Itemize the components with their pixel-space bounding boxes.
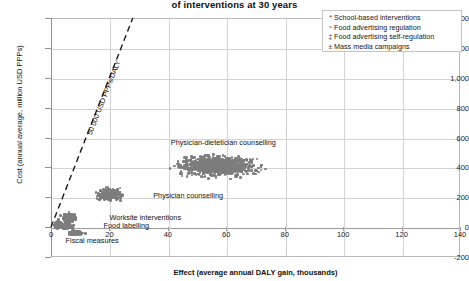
legend-label: Mass media campaigns xyxy=(334,42,410,52)
y-tick-label: 200 xyxy=(423,193,469,202)
data-point xyxy=(215,157,218,160)
data-point xyxy=(256,158,259,161)
data-point xyxy=(245,163,248,166)
data-point xyxy=(69,215,72,218)
gridline-vertical xyxy=(344,19,345,256)
data-point xyxy=(119,187,122,190)
data-point xyxy=(239,176,242,179)
data-point xyxy=(99,197,102,200)
data-point xyxy=(234,176,237,179)
data-point xyxy=(108,194,111,197)
cluster-annotation: Physician counselling xyxy=(153,191,223,200)
x-tick-mark xyxy=(402,227,403,231)
legend-marker-icon: ± xyxy=(327,42,334,51)
data-point xyxy=(181,175,184,178)
data-point xyxy=(207,177,210,180)
legend-item: ˣ Food advertising regulation xyxy=(327,23,458,33)
data-point xyxy=(257,171,260,174)
data-point xyxy=(199,165,202,168)
data-point xyxy=(213,170,216,173)
legend-label: Food advertising regulation xyxy=(334,23,421,33)
x-tick-mark xyxy=(51,227,52,231)
data-point xyxy=(209,166,212,169)
y-tick-mark xyxy=(45,138,51,139)
data-point xyxy=(119,199,122,202)
y-tick-label: 600 xyxy=(423,133,469,142)
data-point xyxy=(226,157,229,160)
data-point xyxy=(232,162,235,165)
data-point xyxy=(238,159,241,162)
y-tick-mark xyxy=(45,18,51,19)
data-point xyxy=(70,218,73,221)
legend-item: * School-based interventions xyxy=(327,13,458,23)
data-point xyxy=(72,231,75,234)
data-point xyxy=(223,160,226,163)
data-point xyxy=(110,189,113,192)
y-tick-mark xyxy=(45,257,51,258)
data-point xyxy=(116,188,119,191)
data-point xyxy=(252,158,255,161)
y-tick-label: 800 xyxy=(423,103,469,112)
data-point xyxy=(244,169,247,172)
x-tick-label: 60 xyxy=(222,230,230,239)
data-point xyxy=(215,162,218,165)
x-tick-label: 0 xyxy=(49,230,53,239)
x-tick-mark xyxy=(226,227,227,231)
legend-marker-icon: ‡ xyxy=(327,32,334,41)
cluster-annotation: Fiscal measures xyxy=(66,236,119,245)
data-point xyxy=(254,173,257,176)
data-point xyxy=(84,232,87,235)
data-point xyxy=(206,172,209,175)
y-axis-line xyxy=(51,18,52,257)
data-point xyxy=(64,225,67,228)
data-point xyxy=(180,172,183,175)
data-point xyxy=(182,160,185,163)
x-tick-label: 80 xyxy=(281,230,289,239)
data-point xyxy=(190,160,193,163)
data-point xyxy=(211,161,214,164)
legend-marker-icon: ˣ xyxy=(327,23,334,32)
data-point xyxy=(193,163,196,166)
x-axis-title: Effect (average annual DALY gain, thousa… xyxy=(51,268,460,277)
data-point xyxy=(264,168,267,171)
data-point xyxy=(242,173,245,176)
gridline-vertical xyxy=(286,19,287,256)
chart-title: of interventions at 30 years xyxy=(0,0,469,10)
data-point xyxy=(112,196,115,199)
data-point xyxy=(257,167,260,170)
cluster-annotation: Food labelling xyxy=(104,221,149,230)
x-tick-label: 40 xyxy=(164,230,172,239)
gridline-vertical xyxy=(403,19,404,256)
x-tick-label: 140 xyxy=(454,230,467,239)
data-point xyxy=(54,223,57,226)
x-tick-label: 120 xyxy=(395,230,408,239)
data-point xyxy=(232,159,235,162)
data-point xyxy=(119,191,122,194)
data-point xyxy=(177,165,180,168)
x-tick-mark xyxy=(343,227,344,231)
y-tick-label: 1,000 xyxy=(423,73,469,82)
y-tick-label: -200 xyxy=(423,253,469,262)
data-point xyxy=(204,175,207,178)
legend: * School-based interventions ˣ Food adve… xyxy=(322,10,462,52)
data-point xyxy=(197,168,200,171)
legend-item: ‡ Food advertising self-regulation xyxy=(327,32,458,42)
legend-marker-icon: * xyxy=(327,13,334,22)
y-tick-mark xyxy=(45,167,51,168)
data-point xyxy=(246,173,249,176)
y-axis-title: Cost (annual average, million USD PPPs) xyxy=(15,40,24,190)
data-point xyxy=(260,169,263,172)
x-tick-mark xyxy=(460,227,461,231)
legend-item: ± Mass media campaigns xyxy=(327,42,458,52)
x-tick-mark xyxy=(168,227,169,231)
data-point xyxy=(186,175,189,178)
y-tick-mark xyxy=(45,78,51,79)
data-point xyxy=(200,175,203,178)
data-point xyxy=(204,163,207,166)
y-tick-mark xyxy=(45,197,51,198)
data-point xyxy=(188,167,191,170)
legend-label: Food advertising self-regulation xyxy=(334,32,434,42)
data-point xyxy=(169,167,172,170)
data-point xyxy=(181,166,184,169)
data-point xyxy=(214,165,217,168)
